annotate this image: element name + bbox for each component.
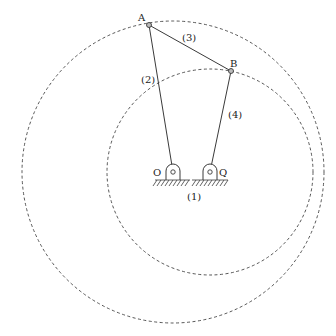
ground-pivot-o — [166, 164, 180, 180]
link-2 — [149, 25, 173, 172]
ground-pivot-q — [203, 164, 217, 180]
joint-b — [229, 69, 234, 74]
four-bar-linkage-diagram: A B O Q (1) (2) (3) (4) — [0, 0, 336, 336]
label-point-a: A — [137, 12, 146, 23]
label-link-1: (1) — [187, 191, 201, 202]
label-link-2: (2) — [141, 74, 155, 85]
label-point-q: Q — [219, 167, 227, 178]
label-link-4: (4) — [228, 109, 242, 120]
label-point-o: O — [153, 167, 161, 178]
ground-hatching — [153, 180, 228, 186]
label-link-3: (3) — [182, 32, 196, 43]
link-4 — [210, 71, 231, 172]
label-point-b: B — [230, 58, 237, 69]
joint-a — [147, 23, 152, 28]
